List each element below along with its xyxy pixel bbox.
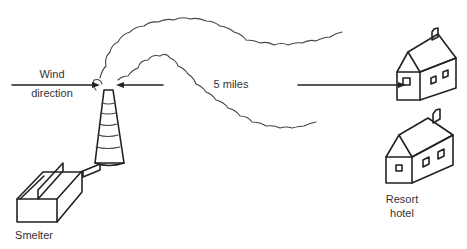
wind-label-line1: Wind bbox=[32, 68, 72, 81]
distance-label: 5 miles bbox=[168, 78, 294, 91]
wind-label-line2: direction bbox=[22, 87, 82, 100]
pollution-diagram: Wind direction 5 miles Smelter Resort ho… bbox=[0, 0, 467, 249]
resort-label-line2: hotel bbox=[380, 207, 424, 220]
smoke-plume bbox=[93, 18, 342, 128]
resort-hotel bbox=[386, 109, 453, 183]
resort-label-line1: Resort bbox=[380, 193, 424, 206]
smokestack bbox=[95, 90, 124, 166]
smelter-label: Smelter bbox=[12, 229, 56, 242]
house-upper bbox=[397, 28, 456, 100]
smelter bbox=[17, 163, 100, 222]
